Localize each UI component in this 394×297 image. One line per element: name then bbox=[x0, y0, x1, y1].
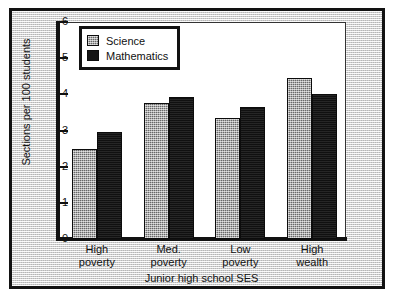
legend-swatch-mathematics-icon bbox=[87, 50, 99, 61]
bar-mathematics-med-poverty bbox=[169, 97, 194, 239]
x-axis-label-line: poverty bbox=[57, 256, 137, 269]
bar-mathematics-high-poverty bbox=[97, 132, 122, 239]
bar-mathematics-low-poverty bbox=[240, 107, 265, 239]
bar-science-high-poverty bbox=[72, 149, 97, 239]
bar-mathematics-high-wealth bbox=[312, 94, 337, 239]
x-axis-label: Lowpoverty bbox=[200, 243, 280, 268]
x-axis-label-line: wealth bbox=[272, 256, 352, 269]
x-axis-label: Med.poverty bbox=[129, 243, 209, 268]
legend-label-mathematics: Mathematics bbox=[106, 50, 168, 62]
bar-science-low-poverty bbox=[215, 118, 240, 239]
x-axis-label: Highwealth bbox=[272, 243, 352, 268]
bar-science-high-wealth bbox=[287, 78, 312, 239]
legend-label-science: Science bbox=[106, 35, 145, 47]
x-axis-title: Junior high school SES bbox=[56, 272, 347, 284]
legend: Science Mathematics bbox=[79, 26, 180, 70]
x-axis-label-line: poverty bbox=[200, 256, 280, 269]
x-axis-label-line: High bbox=[272, 243, 352, 256]
x-axis-label-line: High bbox=[57, 243, 137, 256]
x-axis-label-line: Med. bbox=[129, 243, 209, 256]
figure: Sections per 100 students 0123456 Highpo… bbox=[0, 0, 394, 297]
legend-swatch-science-icon bbox=[87, 35, 99, 46]
legend-item-science: Science bbox=[87, 33, 168, 48]
legend-item-mathematics: Mathematics bbox=[87, 48, 168, 63]
x-axis-label: Highpoverty bbox=[57, 243, 137, 268]
x-axis-label-line: Low bbox=[200, 243, 280, 256]
bar-science-med-poverty bbox=[144, 103, 169, 239]
y-axis-title: Sections per 100 students bbox=[20, 12, 32, 192]
x-axis-label-line: poverty bbox=[129, 256, 209, 269]
